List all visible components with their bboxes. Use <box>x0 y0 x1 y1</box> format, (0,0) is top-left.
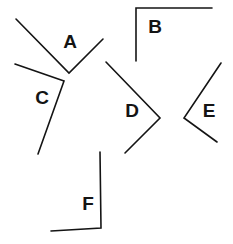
angle-f-label: F <box>82 193 94 214</box>
angle-f-lines <box>51 152 101 231</box>
angle-b: B <box>136 8 212 61</box>
angle-e: E <box>184 63 221 142</box>
angle-d: D <box>106 62 160 153</box>
angles-diagram: A B C D E F <box>0 0 233 244</box>
angle-f: F <box>51 152 101 231</box>
angle-c-label: C <box>35 87 49 108</box>
angle-b-label: B <box>148 16 162 37</box>
angle-c-lines <box>15 64 64 154</box>
angle-c: C <box>15 64 64 154</box>
angle-d-label: D <box>125 100 139 121</box>
angle-a: A <box>16 19 103 73</box>
angle-a-lines <box>16 19 103 73</box>
angle-e-label: E <box>203 100 216 121</box>
angle-a-label: A <box>63 31 77 52</box>
